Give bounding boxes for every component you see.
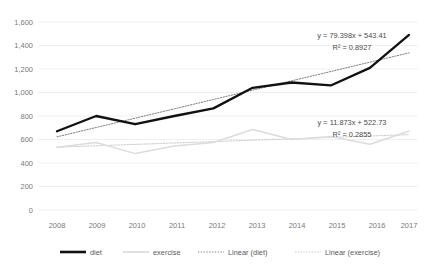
legend-label-linear-exercise: Linear (exercise) (325, 248, 380, 257)
legend-label-exercise: exercise (153, 248, 181, 257)
line-chart: 1,600 1,400 1,200 1,000 800 600 400 200 … (0, 0, 425, 266)
legend-item-exercise[interactable]: exercise (123, 248, 181, 257)
x-tick-label: 2015 (329, 221, 346, 230)
annotation-diet-trendline: y = 79.398x + 543.41 R² = 0.8927 (317, 31, 386, 52)
exercise-equation-text: y = 11.873x + 522.73 (318, 118, 387, 127)
exercise-r-squared-text: R² = 0.2855 (333, 130, 372, 139)
x-tick-label: 2017 (401, 221, 418, 230)
x-tick-label: 2013 (249, 221, 266, 230)
x-tick-label: 2012 (209, 221, 226, 230)
y-tick-label: 1,400 (14, 41, 33, 50)
x-tick-label: 2008 (49, 221, 66, 230)
x-tick-label: 2011 (169, 221, 185, 230)
legend-item-linear-exercise[interactable]: Linear (exercise) (295, 248, 380, 257)
x-axis: 2008 2009 2010 2011 2012 2013 2014 2015 … (49, 221, 418, 230)
x-tick-label: 2016 (369, 221, 386, 230)
y-tick-label: 1,200 (14, 65, 33, 74)
y-tick-label: 400 (20, 159, 33, 168)
diet-equation-text: y = 79.398x + 543.41 (317, 31, 386, 40)
legend-item-diet[interactable]: diet (60, 248, 102, 257)
y-axis: 1,600 1,400 1,200 1,000 800 600 400 200 … (14, 18, 33, 215)
x-tick-label: 2014 (289, 221, 306, 230)
legend-label-diet: diet (90, 248, 102, 257)
y-tick-label: 800 (20, 112, 33, 121)
chart-container: 1,600 1,400 1,200 1,000 800 600 400 200 … (0, 0, 425, 266)
y-tick-label: 200 (20, 182, 33, 191)
y-tick-label: 600 (20, 135, 33, 144)
legend-item-linear-diet[interactable]: Linear (diet) (198, 248, 267, 257)
chart-legend: diet exercise Linear (diet) Linear (exer… (60, 248, 380, 257)
y-tick-label: 1,600 (14, 18, 33, 27)
x-tick-label: 2009 (89, 221, 106, 230)
legend-label-linear-diet: Linear (diet) (228, 248, 267, 257)
diet-r-squared-text: R² = 0.8927 (333, 43, 372, 52)
y-tick-label: 1,000 (14, 88, 33, 97)
x-tick-label: 2010 (129, 221, 146, 230)
y-tick-label: 0 (29, 206, 33, 215)
